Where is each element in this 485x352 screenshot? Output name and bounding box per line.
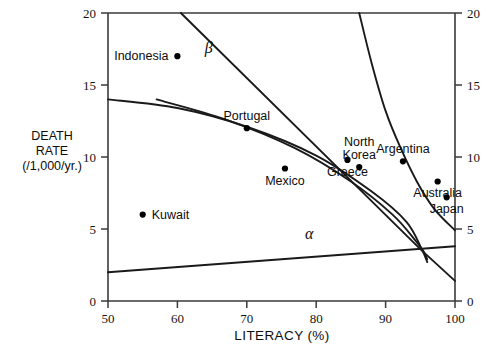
x-tick-label-50: 50 <box>102 311 115 326</box>
point-label: Japan <box>430 202 464 216</box>
y-tick-label-left-0: 0 <box>90 294 97 309</box>
x-axis-title: LITERACY (%) <box>234 328 329 343</box>
point-label: Portugal <box>224 109 271 123</box>
point-marker <box>140 212 146 218</box>
point-marker <box>435 178 441 184</box>
point-marker <box>356 164 362 170</box>
curve-annotations-group: βα <box>204 39 314 242</box>
y-axis-right-tick-labels: 05101520 <box>467 6 480 309</box>
chart-container: 05101520 05101520 5060708090100 Indonesi… <box>0 0 485 352</box>
y-axis-title-line-1: DEATH <box>31 129 72 143</box>
y-tick-label-right-10: 10 <box>467 150 480 165</box>
x-axis-ticks <box>108 301 455 308</box>
x-tick-label-70: 70 <box>240 311 253 326</box>
y-axis-title-line-3: (/1,000/yr.) <box>22 159 82 173</box>
point-marker <box>444 194 450 200</box>
y-tick-label-right-15: 15 <box>467 78 480 93</box>
y-tick-label-left-10: 10 <box>83 150 96 165</box>
point-marker <box>244 125 250 131</box>
curve-alpha-line <box>108 246 455 272</box>
y-tick-label-left-15: 15 <box>83 78 96 93</box>
y-axis-title-line-2: RATE <box>36 144 68 158</box>
point-label: North <box>344 135 375 149</box>
y-axis-left-tick-labels: 05101520 <box>83 6 96 309</box>
beta-label: β <box>204 39 213 57</box>
data-point-kuwait: Kuwait <box>140 208 190 222</box>
y-axis-title: DEATH RATE (/1,000/yr.) <box>22 129 82 173</box>
point-label: Korea <box>343 148 376 162</box>
point-label: Argentina <box>376 142 430 156</box>
point-label: Kuwait <box>152 208 190 222</box>
data-point-mexico: Mexico <box>265 165 305 187</box>
y-tick-label-right-0: 0 <box>467 294 474 309</box>
y-tick-label-right-20: 20 <box>467 6 480 21</box>
death-rate-literacy-chart: 05101520 05101520 5060708090100 Indonesi… <box>0 0 485 352</box>
data-point-portugal: Portugal <box>224 109 271 131</box>
point-marker <box>174 53 180 59</box>
x-tick-label-60: 60 <box>171 311 184 326</box>
y-tick-label-left-20: 20 <box>83 6 96 21</box>
y-tick-label-right-5: 5 <box>467 222 474 237</box>
y-axis-right-ticks <box>455 13 462 301</box>
x-tick-label-80: 80 <box>310 311 323 326</box>
point-marker <box>400 158 406 164</box>
point-label: Australia <box>413 186 462 200</box>
x-axis-tick-labels: 5060708090100 <box>102 311 465 326</box>
point-marker <box>282 165 288 171</box>
x-tick-label-90: 90 <box>379 311 392 326</box>
data-points-group: IndonesiaPortugalKuwaitMexicoGreeceNorth… <box>114 49 464 221</box>
data-point-indonesia: Indonesia <box>114 49 180 63</box>
y-tick-label-left-5: 5 <box>90 222 97 237</box>
alpha-label: α <box>305 225 314 242</box>
y-axis-left-ticks <box>101 13 108 301</box>
point-label: Indonesia <box>114 49 168 63</box>
x-tick-label-100: 100 <box>445 311 465 326</box>
point-label: Mexico <box>265 174 305 188</box>
data-point-argentina: Argentina <box>376 142 430 164</box>
